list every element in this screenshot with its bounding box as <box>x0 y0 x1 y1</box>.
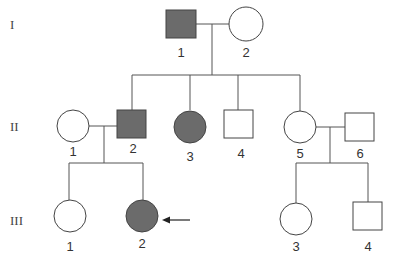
generation-label-I: I <box>10 17 14 32</box>
individual-II-4-male <box>224 110 253 138</box>
individual-II-6-male <box>345 113 374 141</box>
individual-II-2-affected-male <box>117 110 146 138</box>
label-II-4: 4 <box>237 146 244 161</box>
individual-II-1-female <box>57 110 89 142</box>
individual-I-1-affected-male <box>166 10 196 38</box>
label-II-3: 3 <box>186 149 193 164</box>
generation-label-II: II <box>10 119 19 134</box>
individual-I-2-female <box>229 7 263 41</box>
individual-III-3-female <box>280 203 312 235</box>
label-III-1: 1 <box>66 239 73 254</box>
label-III-3: 3 <box>292 239 299 254</box>
label-II-1: 1 <box>69 144 76 159</box>
label-III-2: 2 <box>138 236 145 251</box>
proband-arrow-icon <box>162 217 190 224</box>
label-III-4: 4 <box>364 239 371 254</box>
label-II-5: 5 <box>296 146 303 161</box>
individual-II-3-affected-female <box>174 111 206 143</box>
pedigree-chart: I II III 1 2 1 2 3 4 5 6 1 2 3 4 <box>0 0 393 262</box>
individual-III-4-male <box>353 202 382 230</box>
individual-III-2-affected-female-proband <box>126 200 158 232</box>
individual-III-1-female <box>54 200 86 232</box>
label-I-1: 1 <box>177 45 184 60</box>
individual-II-5-female <box>284 111 316 143</box>
label-I-2: 2 <box>242 45 249 60</box>
label-II-6: 6 <box>356 146 363 161</box>
label-II-2: 2 <box>129 141 136 156</box>
generation-label-III: III <box>10 213 23 228</box>
